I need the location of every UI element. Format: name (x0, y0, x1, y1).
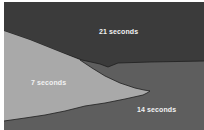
label-21-seconds: 21 seconds (99, 28, 138, 35)
time-region-diagram: 21 seconds 7 seconds 14 seconds (0, 0, 204, 130)
label-7-seconds: 7 seconds (31, 79, 66, 86)
label-14-seconds: 14 seconds (137, 106, 176, 113)
